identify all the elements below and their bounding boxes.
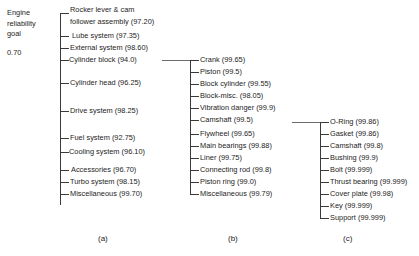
column-b-item-piston: Piston (99.5) [200,67,242,76]
column-a-item-turbo-system: Turbo system (98.15) [70,177,140,186]
column-a-stub-2 [60,36,69,37]
root-label: Engine reliability goal [7,8,36,40]
column-b-stub-1 [190,60,199,61]
column-c-item-key: Key (99.999) [330,201,372,210]
column-a-item-rocker-lever-cont: follower assembly (97.20) [70,17,154,26]
root-label-line3: goal [7,29,36,40]
caption-a: (a) [98,234,108,243]
column-b-stub-9 [190,158,199,159]
column-c-stub-4 [320,158,329,159]
column-a-item-drive-system: Drive system (98.25) [70,106,138,115]
column-a-item-cylinder-block: Cylinder block (94.0) [69,55,137,64]
root-label-line2: reliability [7,19,36,30]
column-c-item-bushing: Bushing (99.9) [330,153,378,162]
column-a-item-external-system: External system (98.60) [70,43,148,52]
column-a-stub-7 [60,138,69,139]
reliability-allocation-diagram: Engine reliability goal 0.70 Rocker leve… [0,0,419,256]
column-b-stub-2 [190,72,199,73]
column-b-item-liner: Liner (99.75) [200,153,242,162]
column-c-item-support: Support (99.999) [330,213,385,222]
column-c-item-bolt: Bolt (99.999) [330,165,372,174]
column-a-stub-5 [60,83,69,84]
column-b-stub-8 [190,146,199,147]
root-label-line1: Engine [7,8,36,19]
column-a-stub-4 [60,60,69,61]
column-c-stub-1 [320,122,329,123]
column-a-item-accessories: Accessories (96.70) [71,165,136,174]
column-c-stub-9 [320,218,329,219]
column-b-spine [190,60,191,194]
column-a-item-fuel-system: Fuel system (92.75) [70,133,135,142]
column-b-stub-6 [190,120,199,121]
column-a-stub-11 [60,194,69,195]
caption-b: (b) [228,234,238,243]
column-b-item-block-misc: Block-misc. (98.05) [200,91,263,100]
column-b-stub-4 [190,96,199,97]
root-value: 0.70 [7,48,21,57]
column-b-stub-11 [190,182,199,183]
column-a-stub-8 [60,152,69,153]
column-a-stub-3 [60,48,69,49]
column-c-stub-5 [320,170,329,171]
column-a-item-cooling-system: Cooling system (96.10) [69,147,145,156]
caption-c: (c) [343,234,352,243]
column-b-item-block-cylinder: Block cylinder (99.55) [200,79,271,88]
column-b-item-vibration-danger: Vibration danger (99.9) [200,103,275,112]
column-c-stub-8 [320,206,329,207]
branch-a-to-b-connector [162,60,190,61]
column-c-stub-3 [320,146,329,147]
column-a-stub-6 [60,111,69,112]
column-c-stub-6 [320,182,329,183]
column-a-spine [60,13,61,205]
column-a-stub-9 [60,170,69,171]
column-b-item-main-bearings: Main bearings (99.88) [200,141,272,150]
column-b-stub-12 [190,194,199,195]
column-a-item-miscellaneous: Miscellaneous (99.70) [70,189,142,198]
column-b-item-connecting-rod: Connecting rod (99.8) [200,165,272,174]
column-a-item-rocker-lever: Rocker lever & cam [70,5,134,14]
column-c-item-gasket: Gasket (99.86) [330,129,379,138]
column-a-item-lube-system: Lube system (97.35) [72,31,139,40]
column-b-item-flywheel: Flywheel (99.65) [200,129,255,138]
column-b-item-camshaft: Camshaft (99.5) [200,115,253,124]
column-b-stub-3 [190,84,199,85]
column-b-stub-10 [190,170,199,171]
column-b-item-piston-ring: Piston ring (99.0) [200,177,256,186]
column-c-item-thrust-bearing: Thrust bearing (99.999) [330,177,407,186]
column-b-item-crank: Crank (99.65) [200,55,245,64]
column-c-item-cover-plate: Cover plate (99.98) [330,189,393,198]
column-a-stub-1 [60,13,69,14]
column-c-item-o-ring: O-Ring (99.86) [330,117,379,126]
column-c-stub-2 [320,134,329,135]
column-c-item-camshaft: Camshaft (99.8) [330,141,383,150]
column-b-stub-5 [190,108,199,109]
column-b-item-miscellaneous: Miscellaneous (99.79) [200,189,272,198]
column-b-stub-7 [190,134,199,135]
branch-b-to-c-connector [292,122,320,123]
column-a-item-rocker-lever-line1: Rocker lever & cam [70,5,134,14]
column-a-stub-10 [60,182,69,183]
column-a-item-cylinder-head: Cylinder head (96.25) [70,78,141,87]
column-c-stub-7 [320,194,329,195]
